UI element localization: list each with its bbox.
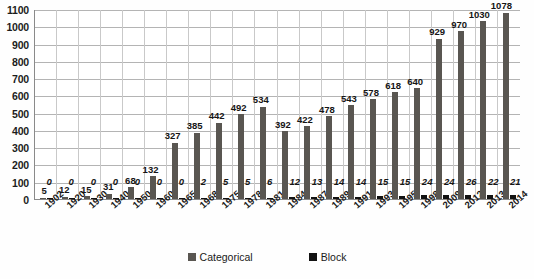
x-tick-slot: 1984 xyxy=(277,201,299,243)
legend-entry[interactable]: Block xyxy=(309,252,347,263)
plot-area: 5012015031068013203270385244254925534639… xyxy=(34,10,520,200)
x-tick-slot: 2012 xyxy=(454,201,476,243)
legend-swatch-icon xyxy=(309,253,317,261)
bar-categorical[interactable] xyxy=(40,198,46,199)
bar-value-categorical: 640 xyxy=(407,77,423,87)
bar-value-block: 0 xyxy=(69,177,74,187)
bar-value-block: 15 xyxy=(400,177,411,187)
bar-value-block: 0 xyxy=(135,177,140,187)
bar-categorical[interactable] xyxy=(172,143,178,199)
bar-block[interactable] xyxy=(377,196,383,199)
bar-block[interactable] xyxy=(399,196,405,199)
bar-categorical[interactable] xyxy=(216,123,222,199)
bar-block[interactable] xyxy=(245,198,251,199)
bar-value-categorical: 1030 xyxy=(469,10,490,20)
bar-categorical[interactable] xyxy=(62,197,68,199)
bar-value-categorical: 1078 xyxy=(491,1,512,11)
bar-block[interactable] xyxy=(421,195,427,199)
y-tick-label: 300 xyxy=(12,143,29,154)
bar-group: 57815 xyxy=(366,10,388,199)
bar-block[interactable] xyxy=(91,198,97,199)
bar-categorical[interactable] xyxy=(348,105,354,199)
bar-categorical[interactable] xyxy=(458,31,464,199)
bar-categorical[interactable] xyxy=(436,39,442,199)
bar-group: 103022 xyxy=(476,10,498,199)
bar-group: 54314 xyxy=(344,10,366,199)
bar-categorical[interactable] xyxy=(150,176,156,199)
legend-label: Categorical xyxy=(200,252,253,263)
y-tick-label: 800 xyxy=(12,57,29,68)
legend-entry[interactable]: Categorical xyxy=(188,252,253,263)
bar-value-categorical: 12 xyxy=(59,185,70,195)
x-tick-slot: 1965 xyxy=(167,201,189,243)
bar-value-categorical: 492 xyxy=(231,103,247,113)
bar-value-categorical: 578 xyxy=(363,88,379,98)
bar-categorical[interactable] xyxy=(260,107,266,199)
bar-categorical[interactable] xyxy=(282,131,288,199)
x-tick-slot: 1993 xyxy=(365,201,387,243)
x-tick-slot: 1902 xyxy=(34,201,56,243)
bar-block[interactable] xyxy=(135,198,141,199)
bar-block[interactable] xyxy=(223,198,229,199)
bar-value-block: 24 xyxy=(422,177,433,187)
bar-block[interactable] xyxy=(355,197,361,199)
bar-categorical[interactable] xyxy=(392,92,398,199)
bar-group: 107821 xyxy=(498,10,520,199)
bar-block[interactable] xyxy=(201,198,207,199)
bar-categorical[interactable] xyxy=(238,114,244,199)
bar-block[interactable] xyxy=(443,195,449,199)
bar-value-categorical: 929 xyxy=(429,27,445,37)
bar-categorical[interactable] xyxy=(414,88,420,199)
bar-group: 120 xyxy=(57,10,79,199)
legend-swatch-icon xyxy=(188,253,196,261)
x-tick-slot: 1995 xyxy=(388,201,410,243)
bar-block[interactable] xyxy=(333,197,339,199)
bar-categorical[interactable] xyxy=(194,133,200,200)
bar-block[interactable] xyxy=(157,198,163,199)
y-tick-label: 900 xyxy=(12,39,29,50)
bar-block[interactable] xyxy=(289,197,295,199)
bar-group: 5346 xyxy=(255,10,277,199)
bar-value-block: 26 xyxy=(466,177,477,187)
bar-categorical[interactable] xyxy=(480,21,486,199)
y-tick-label: 600 xyxy=(12,91,29,102)
bar-group: 310 xyxy=(101,10,123,199)
bar-categorical[interactable] xyxy=(503,13,509,199)
bar-group: 64024 xyxy=(410,10,432,199)
bar-block[interactable] xyxy=(113,198,119,199)
bar-group: 1320 xyxy=(145,10,167,199)
bar-categorical[interactable] xyxy=(326,116,332,199)
bar-block[interactable] xyxy=(487,195,493,199)
bar-categorical[interactable] xyxy=(128,187,134,199)
x-axis: 1902192019301940195019601965196819751978… xyxy=(34,201,520,243)
bar-value-categorical: 534 xyxy=(253,95,269,105)
bar-block[interactable] xyxy=(311,197,317,199)
x-tick-slot: 1968 xyxy=(189,201,211,243)
x-tick-slot: 1920 xyxy=(56,201,78,243)
bar-categorical[interactable] xyxy=(84,196,90,199)
chart-legend: CategoricalBlock xyxy=(0,252,534,263)
x-tick-slot: 1975 xyxy=(211,201,233,243)
bar-value-categorical: 970 xyxy=(451,20,467,30)
bar-value-block: 12 xyxy=(290,177,301,187)
bar-categorical[interactable] xyxy=(106,194,112,199)
x-tick-slot: 1991 xyxy=(343,201,365,243)
bar-value-block: 14 xyxy=(356,177,367,187)
bar-value-categorical: 442 xyxy=(209,111,225,121)
bar-value-block: 5 xyxy=(245,177,250,187)
bar-categorical[interactable] xyxy=(304,126,310,199)
bar-categorical[interactable] xyxy=(370,99,376,199)
bar-block[interactable] xyxy=(510,195,516,199)
x-tick-slot: 1981 xyxy=(255,201,277,243)
bar-value-categorical: 392 xyxy=(275,120,291,130)
bar-value-block: 5 xyxy=(223,177,228,187)
bar-value-block: 0 xyxy=(91,177,96,187)
bar-block[interactable] xyxy=(465,195,471,199)
bar-block[interactable] xyxy=(267,198,273,199)
bar-block[interactable] xyxy=(47,198,53,199)
bar-value-block: 24 xyxy=(444,177,455,187)
x-tick-slot: 2013 xyxy=(476,201,498,243)
bar-block[interactable] xyxy=(179,198,185,199)
bar-group: 3270 xyxy=(167,10,189,199)
bar-block[interactable] xyxy=(69,198,75,199)
